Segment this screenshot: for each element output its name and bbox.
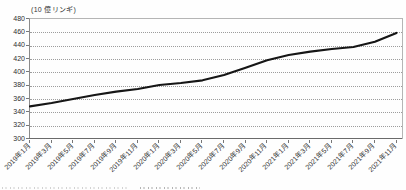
y-tick-label: 380 [0, 80, 25, 89]
x-tick-mark [396, 140, 397, 143]
axis-unit-label: (10 億リンギ) [31, 4, 76, 14]
y-tick-label: 320 [0, 120, 25, 129]
chart: (10 億リンギ) 480460440420400380360340320300… [0, 0, 406, 190]
x-tick-mark [115, 140, 116, 143]
x-tick-mark [352, 140, 353, 143]
x-tick-mark [51, 140, 52, 143]
y-tick-label: 360 [0, 94, 25, 103]
y-tick-label: 300 [0, 134, 25, 143]
cropped-text-remnant [140, 187, 200, 189]
x-tick-mark [288, 140, 289, 143]
y-tick-mark [26, 85, 29, 86]
y-tick-label: 460 [0, 27, 25, 36]
y-tick-label: 400 [0, 67, 25, 76]
cropped-text-remnant [2, 187, 128, 189]
x-tick-mark [180, 140, 181, 143]
x-tick-mark [201, 140, 202, 143]
y-tick-mark [26, 111, 29, 112]
plot-area [29, 18, 403, 139]
x-tick-mark [72, 140, 73, 143]
x-tick-mark [158, 140, 159, 143]
x-tick-mark [374, 140, 375, 143]
y-tick-mark [26, 18, 29, 19]
data-line-layer [30, 19, 402, 139]
y-tick-label: 340 [0, 107, 25, 116]
x-tick-mark [266, 140, 267, 143]
x-axis [29, 138, 402, 139]
x-tick-mark [29, 140, 30, 143]
x-tick-mark [331, 140, 332, 143]
y-tick-mark [26, 45, 29, 46]
y-tick-label: 440 [0, 40, 25, 49]
x-tick-mark [137, 140, 138, 143]
x-tick-mark [94, 140, 95, 143]
y-tick-mark [26, 58, 29, 59]
y-tick-mark [26, 71, 29, 72]
x-tick-mark [245, 140, 246, 143]
y-tick-mark [26, 125, 29, 126]
y-tick-label: 480 [0, 14, 25, 23]
x-tick-mark [223, 140, 224, 143]
data-line [30, 33, 397, 106]
y-tick-label: 420 [0, 54, 25, 63]
x-tick-mark [309, 140, 310, 143]
y-tick-mark [26, 98, 29, 99]
y-tick-mark [26, 31, 29, 32]
